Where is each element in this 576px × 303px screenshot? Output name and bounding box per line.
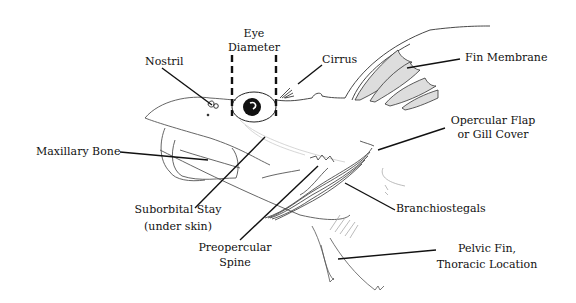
cirrus-glyph	[280, 88, 294, 98]
label-eye-line2: Diameter	[228, 41, 280, 55]
fin-membrane-shading	[355, 50, 438, 110]
label-suborbital-stay: Suborbital Stay (under skin)	[132, 203, 224, 234]
label-eye-diameter: Eye Diameter	[228, 27, 280, 55]
label-fin-membrane: Fin Membrane	[465, 51, 547, 65]
label-pelvic-fin: Pelvic Fin, Thoracic Location	[432, 242, 542, 272]
label-cirrus: Cirrus	[322, 53, 357, 67]
label-pelvic-line2: Thoracic Location	[432, 258, 542, 272]
eye-glyph	[232, 92, 276, 122]
maxillary-bone-leader	[120, 152, 208, 160]
branchiostegals-leader	[345, 183, 395, 210]
preopercular-spine-leader	[240, 166, 318, 240]
label-preopercular-line1: Preopercular	[198, 241, 272, 255]
branchiostegal-rays	[265, 141, 374, 220]
label-preopercular-line2: Spine	[198, 256, 272, 270]
label-nostril: Nostril	[145, 55, 184, 69]
fin-membrane-leader	[407, 59, 460, 68]
label-opercular-line1: Opercular Flap	[443, 114, 543, 128]
pectoral-fin-sketch	[330, 168, 405, 238]
label-suborbital-line2: (under skin)	[132, 220, 224, 234]
label-suborbital-line1: Suborbital Stay	[132, 203, 224, 217]
nostril-leader	[162, 68, 212, 105]
label-maxillary-bone: Maxillary Bone	[36, 145, 120, 159]
pelvic-fin-leader	[338, 250, 436, 259]
cirrus-leader	[298, 65, 322, 84]
label-eye-line1: Eye	[228, 27, 280, 41]
label-preopercular-spine: Preopercular Spine	[198, 241, 272, 270]
label-opercular-line2: or Gill Cover	[443, 128, 543, 142]
label-branchiostegals: Branchiostegals	[396, 202, 486, 216]
label-pelvic-line1: Pelvic Fin,	[432, 242, 542, 256]
label-opercular-flap: Opercular Flap or Gill Cover	[443, 114, 543, 142]
opercular-flap-leader	[378, 128, 445, 150]
suborbital-sketch	[240, 120, 345, 162]
